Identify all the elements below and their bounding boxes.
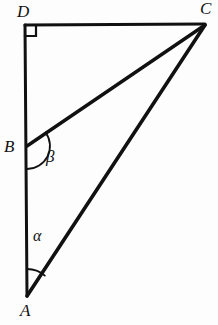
vertex-label-D: D <box>17 3 29 20</box>
vertex-label-A: A <box>20 302 30 319</box>
angle-label-beta: β <box>46 148 54 165</box>
vertex-label-B: B <box>4 138 14 155</box>
geometry-figure: D C B A α β <box>0 0 218 325</box>
segment-DA <box>25 25 27 296</box>
vertex-label-C: C <box>200 0 211 17</box>
segment-BC <box>27 25 205 146</box>
geometry-diagram-canvas <box>0 0 218 325</box>
segment-DC <box>25 24 205 25</box>
angle-label-alpha: α <box>33 228 41 244</box>
right-angle-marker-D <box>25 25 36 36</box>
